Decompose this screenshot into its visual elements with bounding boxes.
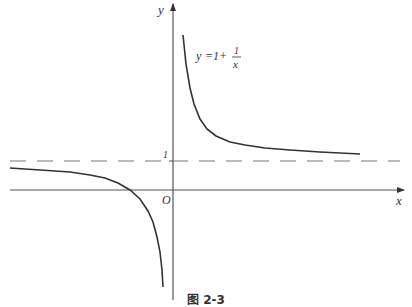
equation-denominator: x [232,58,238,70]
equation-numerator: 1 [234,45,239,56]
y-axis-label: y [156,2,164,17]
tick-y1-label: 1 [163,149,168,160]
equation-lhs: y [195,49,202,63]
origin-label: O [162,193,171,207]
figure-caption: 图 2-3 [0,290,412,307]
function-graph: y x O 1 y =1+ 1 x [0,0,412,307]
x-axis-label: x [395,193,402,208]
curve-left-branch [10,168,163,287]
equation-rhs: =1+ [205,49,227,63]
equation-label: y =1+ 1 x [195,45,241,70]
